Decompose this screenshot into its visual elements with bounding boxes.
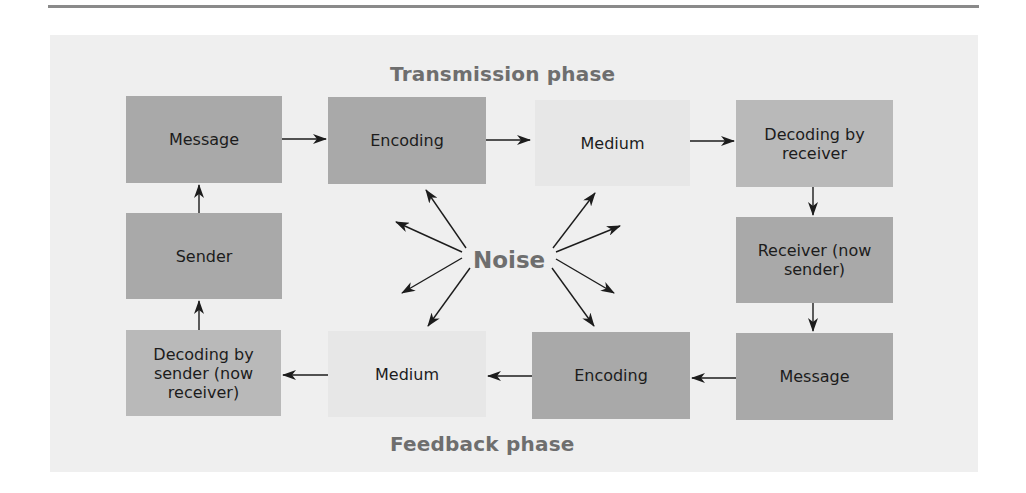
encoding-box-transmission: Encoding: [328, 97, 486, 184]
sender-box: Sender: [126, 213, 282, 299]
decoding-by-receiver-box: Decoding by receiver: [736, 100, 893, 187]
medium-box-feedback: Medium: [328, 331, 486, 417]
decoding-by-sender-box: Decoding by sender (now receiver): [126, 330, 281, 416]
message-box-transmission: Message: [126, 96, 282, 183]
encoding-box-feedback: Encoding: [532, 332, 690, 419]
noise-label: Noise: [473, 247, 545, 273]
medium-box-transmission: Medium: [535, 100, 690, 186]
feedback-phase-title: Feedback phase: [390, 432, 575, 456]
top-rule: [48, 5, 979, 8]
transmission-phase-title: Transmission phase: [390, 62, 615, 86]
receiver-now-sender-box: Receiver (now sender): [736, 217, 893, 303]
message-box-feedback: Message: [736, 333, 893, 420]
